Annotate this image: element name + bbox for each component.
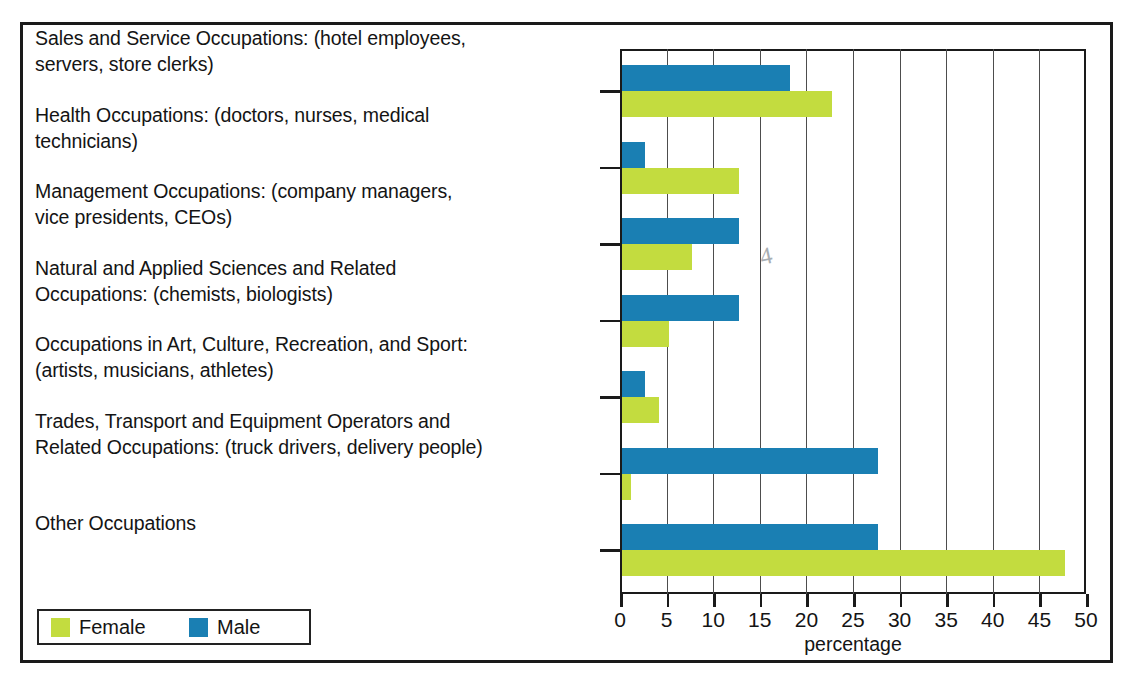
x-axis-title: percentage <box>620 633 1086 656</box>
category-label-line1: Trades, Transport and Equipment Operator… <box>35 408 627 434</box>
bar-female-2 <box>622 244 692 270</box>
x-tick-40 <box>993 594 996 607</box>
plot-area <box>620 49 1086 594</box>
category-label-line1: Other Occupations <box>35 510 627 536</box>
x-tick-label-30: 30 <box>878 608 922 632</box>
x-tick-label-40: 40 <box>971 608 1015 632</box>
category-label-column: Sales and Service Occupations: (hotel em… <box>35 31 627 591</box>
category-label-line2: Related Occupations: (truck drivers, del… <box>35 434 627 460</box>
bar-female-1 <box>622 168 739 194</box>
x-tick-label-5: 5 <box>645 608 689 632</box>
y-axis-tick-2 <box>600 243 622 246</box>
y-axis-tick-3 <box>600 320 622 323</box>
category-label-5: Trades, Transport and Equipment Operator… <box>35 408 627 460</box>
category-label-1: Health Occupations: (doctors, nurses, me… <box>35 102 627 154</box>
gridline-35 <box>946 49 947 594</box>
bar-male-6 <box>622 524 878 550</box>
category-label-6: Other Occupations <box>35 510 627 536</box>
x-tick-30 <box>900 594 903 607</box>
gridline-45 <box>1039 49 1040 594</box>
y-axis-tick-6 <box>600 549 622 552</box>
category-label-line1: Natural and Applied Sciences and Related <box>35 255 627 281</box>
y-axis-tick-4 <box>600 396 622 399</box>
bar-male-5 <box>622 448 878 474</box>
category-label-line1: Sales and Service Occupations: (hotel em… <box>35 25 627 51</box>
x-tick-label-20: 20 <box>784 608 828 632</box>
x-tick-label-0: 0 <box>598 608 642 632</box>
bar-male-4 <box>622 371 645 397</box>
y-axis-tick-1 <box>600 167 622 170</box>
x-tick-label-50: 50 <box>1064 608 1108 632</box>
x-tick-10 <box>713 594 716 607</box>
category-label-line1: Occupations in Art, Culture, Recreation,… <box>35 331 627 357</box>
category-label-line2: vice presidents, CEOs) <box>35 204 627 230</box>
gridline-25 <box>853 49 854 594</box>
y-axis-tick-5 <box>600 473 622 476</box>
legend-label-male: Male <box>217 616 260 639</box>
bar-female-4 <box>622 397 659 423</box>
x-tick-label-35: 35 <box>924 608 968 632</box>
category-label-2: Management Occupations: (company manager… <box>35 178 627 230</box>
legend-swatch-female <box>51 618 70 637</box>
x-tick-20 <box>806 594 809 607</box>
bar-male-3 <box>622 295 739 321</box>
bar-female-5 <box>622 474 631 500</box>
legend-swatch-male <box>189 618 208 637</box>
gridline-30 <box>900 49 901 594</box>
x-tick-35 <box>946 594 949 607</box>
category-label-0: Sales and Service Occupations: (hotel em… <box>35 25 627 77</box>
chart-figure: Sales and Service Occupations: (hotel em… <box>20 22 1113 663</box>
x-tick-0 <box>620 594 623 607</box>
gridline-10 <box>713 49 714 594</box>
x-tick-label-25: 25 <box>831 608 875 632</box>
category-label-line2: servers, store clerks) <box>35 51 627 77</box>
x-tick-5 <box>667 594 670 607</box>
legend-entry-female[interactable]: Female <box>51 611 146 643</box>
category-label-line1: Management Occupations: (company manager… <box>35 178 627 204</box>
category-label-4: Occupations in Art, Culture, Recreation,… <box>35 331 627 383</box>
legend-entry-male[interactable]: Male <box>189 611 260 643</box>
x-tick-label-45: 45 <box>1017 608 1061 632</box>
category-label-line2: Occupations: (chemists, biologists) <box>35 281 627 307</box>
category-label-line2: technicians) <box>35 128 627 154</box>
y-axis-tick-0 <box>600 90 622 93</box>
bar-male-2 <box>622 218 739 244</box>
x-tick-label-10: 10 <box>691 608 735 632</box>
x-tick-15 <box>760 594 763 607</box>
bar-female-6 <box>622 550 1065 576</box>
bar-male-0 <box>622 65 790 91</box>
chart-legend: Female Male <box>37 609 311 645</box>
x-tick-label-15: 15 <box>738 608 782 632</box>
category-label-line1: Health Occupations: (doctors, nurses, me… <box>35 102 627 128</box>
x-tick-45 <box>1039 594 1042 607</box>
gridline-40 <box>993 49 994 594</box>
legend-label-female: Female <box>79 616 146 639</box>
category-label-line2: (artists, musicians, athletes) <box>35 357 627 383</box>
bar-female-0 <box>622 91 832 117</box>
bar-female-3 <box>622 321 669 347</box>
x-tick-50 <box>1086 594 1089 607</box>
bar-male-1 <box>622 142 645 168</box>
x-tick-25 <box>853 594 856 607</box>
gridline-20 <box>806 49 807 594</box>
category-label-3: Natural and Applied Sciences and Related… <box>35 255 627 307</box>
gridline-15 <box>760 49 761 594</box>
